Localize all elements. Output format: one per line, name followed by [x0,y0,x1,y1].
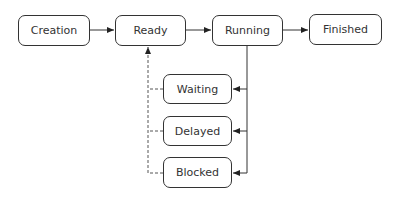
state-waiting: Waiting [163,74,232,104]
state-label: Finished [323,23,368,36]
state-label: Ready [133,24,167,37]
state-finished: Finished [309,14,382,45]
state-ready: Ready [115,15,186,46]
state-label: Blocked [176,166,219,179]
state-blocked: Blocked [163,157,232,188]
state-running: Running [212,15,283,46]
state-label: Running [225,24,270,37]
state-label: Delayed [175,125,220,138]
state-creation: Creation [18,15,90,46]
state-label: Waiting [177,83,218,96]
state-delayed: Delayed [163,116,232,146]
state-label: Creation [31,24,78,37]
